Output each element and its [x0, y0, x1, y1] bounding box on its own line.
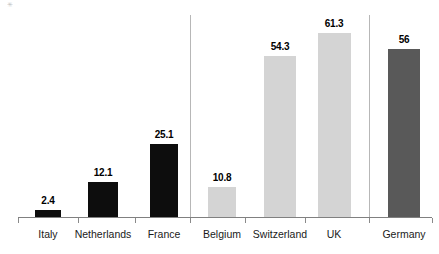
- bar-chart: ✳ 2.412.125.110.854.361.356 ItalyNetherl…: [0, 0, 439, 254]
- bar-value-netherlands: 12.1: [76, 167, 130, 178]
- bar-value-france: 25.1: [137, 129, 191, 140]
- x-axis-category-labels: ItalyNetherlandsFranceBelgiumSwitzerland…: [0, 228, 439, 250]
- category-label-france: France: [137, 228, 191, 241]
- axis-tick-4: [245, 218, 246, 223]
- axis-tick-0: [18, 218, 19, 223]
- axis-tick-1: [78, 218, 79, 223]
- axis-tick-2: [135, 218, 136, 223]
- group-separator-1: [190, 15, 191, 218]
- bar-belgium: [208, 187, 236, 218]
- category-label-belgium: Belgium: [195, 228, 249, 241]
- axis-tick-3: [190, 218, 191, 223]
- bar-value-switzerland: 54.3: [253, 41, 307, 52]
- category-label-netherlands: Netherlands: [69, 228, 137, 241]
- bar-germany: [388, 49, 420, 218]
- category-label-italy: Italy: [21, 228, 75, 241]
- category-label-uk: UK: [307, 228, 361, 241]
- bar-uk: [318, 33, 351, 218]
- bar-value-italy: 2.4: [21, 195, 75, 206]
- group-separator-2: [369, 15, 370, 218]
- plot-area: 2.412.125.110.854.361.356: [0, 0, 439, 218]
- bar-switzerland: [264, 56, 296, 218]
- axis-tick-6: [369, 218, 370, 223]
- axis-tick-5: [305, 218, 306, 223]
- bar-value-germany: 56: [377, 34, 431, 45]
- category-label-germany: Germany: [377, 228, 431, 241]
- bar-value-belgium: 10.8: [195, 172, 249, 183]
- bar-value-uk: 61.3: [307, 18, 361, 29]
- bar-france: [150, 144, 178, 218]
- bar-netherlands: [88, 182, 118, 218]
- axis-tick-7: [432, 218, 433, 223]
- category-label-switzerland: Switzerland: [246, 228, 314, 241]
